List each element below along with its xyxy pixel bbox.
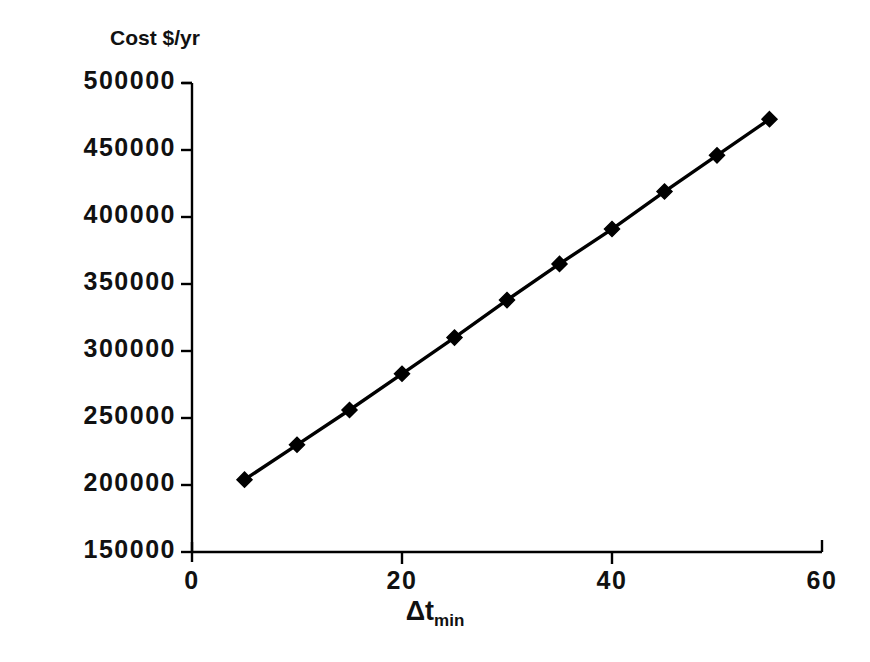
plot-area: [0, 0, 870, 662]
axes-lines: [182, 83, 822, 552]
chart-figure: Cost $/yr 150000200000250000300000350000…: [0, 0, 870, 662]
axis-ticks: [181, 83, 612, 564]
